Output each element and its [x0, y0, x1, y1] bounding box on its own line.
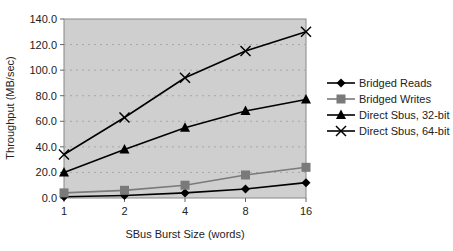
y-axis: 0.020.040.060.080.0100.0120.0140.0: [29, 13, 64, 204]
x-tick-label: 1: [61, 205, 67, 217]
square-marker-icon: [302, 163, 311, 172]
legend-item: Direct Sbus, 32-bit: [327, 109, 449, 121]
legend-item: Bridged Writes: [327, 93, 431, 105]
y-tick-label: 60.0: [36, 115, 57, 127]
y-tick-label: 80.0: [36, 90, 57, 102]
y-tick-label: 140.0: [29, 13, 57, 25]
square-marker-icon: [337, 95, 346, 104]
x-axis-title: SBus Burst Size (words): [125, 228, 244, 240]
legend-item: Direct Sbus, 64-bit: [327, 125, 449, 137]
y-axis-title: Throughput (MB/sec): [4, 56, 16, 159]
legend-item: Bridged Reads: [327, 77, 432, 89]
square-marker-icon: [181, 181, 190, 190]
y-tick-label: 40.0: [36, 141, 57, 153]
legend-label: Bridged Writes: [359, 93, 431, 105]
square-marker-icon: [241, 170, 250, 179]
y-tick-label: 20.0: [36, 166, 57, 178]
line-chart: 0.020.040.060.080.0100.0120.0140.0 12481…: [0, 0, 453, 251]
legend-label: Bridged Reads: [359, 77, 432, 89]
legend: Bridged ReadsBridged WritesDirect Sbus, …: [327, 77, 449, 137]
diamond-marker-icon: [337, 79, 346, 88]
y-tick-label: 0.0: [42, 192, 57, 204]
x-tick-label: 2: [121, 205, 127, 217]
square-marker-icon: [60, 188, 69, 197]
x-tick-label: 4: [182, 205, 188, 217]
x-tick-label: 8: [242, 205, 248, 217]
y-tick-label: 120.0: [29, 39, 57, 51]
legend-label: Direct Sbus, 32-bit: [359, 109, 449, 121]
y-tick-label: 100.0: [29, 64, 57, 76]
x-axis: 124816: [61, 198, 312, 217]
x-tick-label: 16: [300, 205, 312, 217]
square-marker-icon: [120, 186, 129, 195]
legend-label: Direct Sbus, 64-bit: [359, 125, 449, 137]
